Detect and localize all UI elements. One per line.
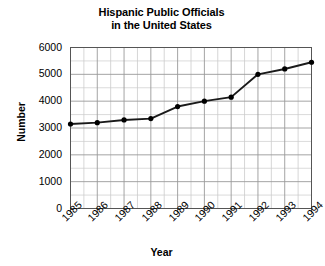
y-tick-label: 3000 (22, 121, 62, 133)
y-tick-label: 5000 (22, 67, 62, 79)
x-axis-label: Year (0, 246, 323, 258)
y-tick-label: 6000 (22, 41, 62, 53)
y-tick-label: 0 (22, 202, 62, 214)
y-tick-label: 1000 (22, 175, 62, 187)
y-axis-label: Number (15, 92, 27, 152)
y-tick-label: 4000 (22, 94, 62, 106)
y-tick-label: 2000 (22, 148, 62, 160)
